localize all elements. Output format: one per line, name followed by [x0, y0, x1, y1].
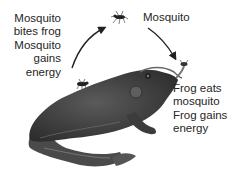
left-label-line: bites frog — [6, 25, 61, 38]
left-label-line: gains — [6, 52, 61, 65]
arrow-eat — [148, 28, 175, 58]
label-mosquito-bites-frog: Mosquito bites frog Mosquito gains energ… — [6, 12, 61, 79]
right-label-line: mosquito — [173, 95, 237, 108]
label-frog-eats-mosquito: Frog eats mosquito Frog gains energy — [173, 82, 237, 136]
mosquito-caught-icon — [180, 60, 188, 66]
right-label-line: Frog gains — [173, 109, 237, 122]
label-mosquito: Mosquito — [143, 11, 190, 24]
right-label-line: Frog eats — [173, 82, 237, 95]
left-label-line: energy — [6, 66, 61, 79]
right-label-line: energy — [173, 122, 237, 135]
arrow-bite — [72, 28, 104, 68]
left-label-line: Mosquito — [6, 12, 61, 25]
mosquito-flying-icon — [111, 11, 128, 24]
left-label-line: Mosquito — [6, 39, 61, 52]
